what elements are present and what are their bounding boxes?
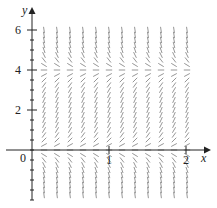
slope-segment xyxy=(81,138,86,143)
slope-segment xyxy=(93,63,98,66)
slope-segment xyxy=(119,73,125,76)
slope-segment xyxy=(120,157,124,162)
slope-segment xyxy=(41,143,47,146)
slope-segment xyxy=(55,132,59,137)
slope-segment xyxy=(55,78,60,83)
slope-segment xyxy=(42,87,45,93)
slope-segment xyxy=(146,87,149,93)
slope-segment xyxy=(107,132,111,137)
slope-segment xyxy=(68,132,72,137)
slope-segment xyxy=(41,153,46,156)
slope-segment xyxy=(133,78,138,83)
slope-segment xyxy=(172,57,176,62)
slope-segment xyxy=(42,157,46,162)
slope-segment xyxy=(158,143,164,146)
slope-segment xyxy=(120,57,124,62)
slope-segment xyxy=(55,157,59,162)
slope-segment xyxy=(120,87,123,93)
slope-segment xyxy=(81,157,85,162)
slope-segment xyxy=(107,87,110,93)
slope-segment xyxy=(146,127,149,133)
slope-segment xyxy=(68,87,71,93)
slope-segment xyxy=(159,87,162,93)
slope-segment xyxy=(42,127,45,133)
slope-segment xyxy=(67,143,73,146)
slope-segment xyxy=(133,57,137,62)
slope-segment xyxy=(42,138,47,143)
slope-segment xyxy=(94,87,97,93)
slope-segment xyxy=(107,82,111,87)
slope-segment xyxy=(55,127,58,133)
slope-segment xyxy=(42,78,47,83)
slope-segment xyxy=(55,138,60,143)
slope-segment xyxy=(145,153,150,156)
slope-segment xyxy=(68,138,73,143)
slope-segment xyxy=(68,127,71,133)
slope-segment xyxy=(94,157,98,162)
slope-segment xyxy=(67,63,72,66)
slope-segment xyxy=(80,73,86,76)
slope-segment xyxy=(185,132,189,137)
slope-segment xyxy=(107,57,111,62)
slope-segment xyxy=(133,132,137,137)
slope-segment xyxy=(184,143,190,146)
slope-segment xyxy=(171,153,176,156)
slope-segment xyxy=(145,143,151,146)
slope-segment xyxy=(171,73,177,76)
slope-segment xyxy=(81,127,84,133)
slope-segment xyxy=(68,157,72,162)
slope-segment xyxy=(171,63,176,66)
slope-field-diagram: y x 0 6 4 2 1 2 xyxy=(0,0,217,208)
slope-segment xyxy=(133,82,137,87)
slope-segment xyxy=(146,78,151,83)
slope-segment xyxy=(107,138,112,143)
slope-segment xyxy=(41,63,46,66)
slope-segment xyxy=(120,132,124,137)
slope-segment xyxy=(54,143,60,146)
slope-segment xyxy=(81,78,86,83)
origin-label: 0 xyxy=(20,151,26,165)
slope-segment xyxy=(185,138,190,143)
slope-segment xyxy=(81,82,85,87)
slope-segment xyxy=(55,87,58,93)
slope-segment xyxy=(146,138,151,143)
slope-segment xyxy=(132,153,137,156)
slope-segment xyxy=(185,127,188,133)
slope-segment xyxy=(93,143,99,146)
slope-segment xyxy=(94,82,98,87)
slope-segment xyxy=(146,82,150,87)
slope-segment xyxy=(172,87,175,93)
slope-segment xyxy=(68,57,72,62)
slope-segment xyxy=(54,73,60,76)
slope-segment xyxy=(132,143,138,146)
slope-segment xyxy=(107,78,112,83)
x-axis-label: x xyxy=(200,151,207,165)
slope-segment xyxy=(42,82,46,87)
slope-segment xyxy=(132,63,137,66)
y-axis-label: y xyxy=(21,3,28,17)
slope-segment xyxy=(41,73,47,76)
slope-segment xyxy=(93,73,99,76)
slope-segment xyxy=(159,82,163,87)
y-tick-label-4: 4 xyxy=(15,63,21,77)
slope-segment xyxy=(171,143,177,146)
slope-segment xyxy=(42,57,46,62)
slope-segment xyxy=(55,82,59,87)
y-tick-label-6: 6 xyxy=(15,23,21,37)
slope-segment xyxy=(94,132,98,137)
slope-segment xyxy=(67,153,72,156)
slope-segment xyxy=(133,157,137,162)
y-tick-label-2: 2 xyxy=(15,103,21,117)
slope-segment xyxy=(133,87,136,93)
slope-segment xyxy=(159,138,164,143)
slope-segment xyxy=(185,78,190,83)
slope-segment xyxy=(159,127,162,133)
slope-segment xyxy=(172,132,176,137)
slope-segment xyxy=(158,153,163,156)
slope-segment xyxy=(159,157,163,162)
slope-segment xyxy=(172,127,175,133)
slope-segment xyxy=(184,73,190,76)
slope-segment xyxy=(159,57,163,62)
slope-segment xyxy=(146,157,150,162)
slope-segment xyxy=(158,73,164,76)
